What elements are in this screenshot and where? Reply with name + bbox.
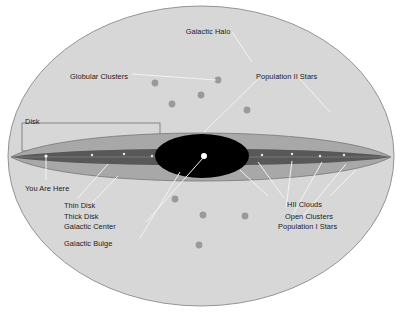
label-galactic-bulge: Galactic Bulge (64, 239, 112, 248)
globular-cluster-dot (242, 213, 249, 220)
globular-cluster-dot (152, 80, 159, 87)
label-galactic-halo: Galactic Halo (186, 27, 231, 36)
galaxy-structure-diagram: Galactic Halo Globular Clusters Populati… (0, 0, 402, 313)
sun-position-marker (44, 154, 47, 157)
globular-cluster-dot (196, 242, 203, 249)
label-population-ii-stars: Population II Stars (256, 72, 317, 81)
galactic-center-dot (201, 153, 207, 159)
globular-cluster-dot (198, 92, 205, 99)
globular-cluster-dot (172, 196, 179, 203)
label-thin-disk: Thin Disk (64, 201, 95, 210)
disk-object-marker (151, 155, 153, 157)
disk-object-marker (319, 155, 321, 157)
label-thick-disk: Thick Disk (64, 212, 99, 221)
label-open-clusters: Open Clusters (285, 212, 333, 221)
galaxy-illustration (0, 0, 402, 313)
globular-cluster-dot (169, 101, 176, 108)
disk-object-marker (261, 154, 263, 156)
label-galactic-center: Galactic Center (64, 222, 116, 231)
globular-cluster-dot (200, 212, 207, 219)
globular-cluster-dot (244, 107, 251, 114)
label-disk: Disk (25, 117, 40, 126)
disk-object-marker (123, 153, 125, 155)
disk-object-marker (291, 153, 293, 155)
label-hii-clouds: HII Clouds (287, 200, 322, 209)
label-globular-clusters: Globular Clusters (70, 72, 128, 81)
label-you-are-here: You Are Here (25, 184, 69, 193)
label-population-i-stars: Population I Stars (278, 222, 337, 231)
disk-object-marker (343, 154, 345, 156)
disk-object-marker (91, 154, 93, 156)
